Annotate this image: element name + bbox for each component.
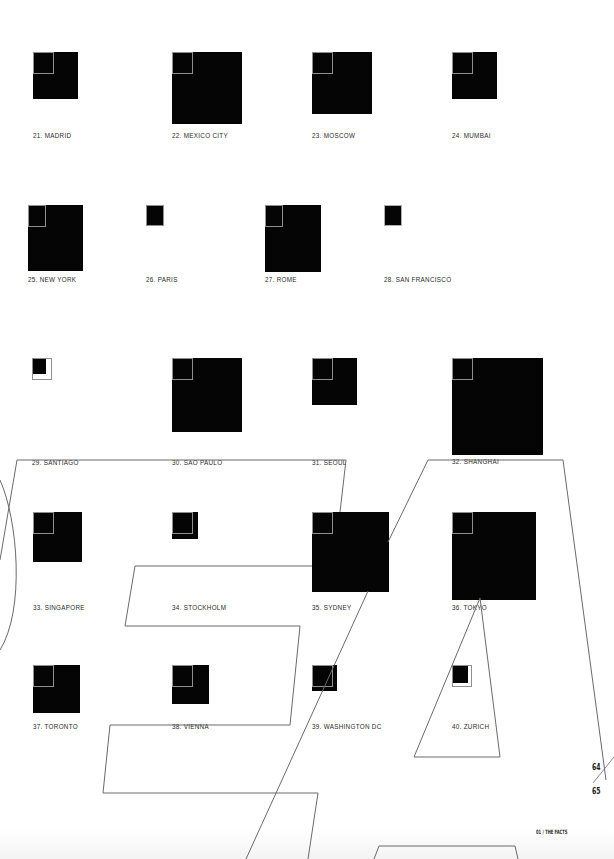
reference-square (28, 205, 46, 227)
city-block-mexico-city: 22. MEXICO CITY (172, 52, 292, 192)
reference-square (172, 52, 193, 74)
city-block-stockholm: 34. STOCKHOLM (172, 512, 292, 652)
city-label: 26. PARIS (146, 276, 178, 283)
reference-square (312, 52, 333, 74)
reference-square (452, 358, 473, 380)
city-block-madrid: 21. MADRID (33, 52, 153, 192)
city-label: 40. ZURICH (452, 723, 489, 730)
city-block-santiago: 29. SANTIAGO (32, 358, 152, 498)
area-square (453, 666, 468, 683)
reference-square (172, 358, 193, 380)
city-label: 37. TORONTO (33, 723, 78, 730)
city-block-tokyo: 36. TOKYO (452, 512, 572, 652)
city-label: 35. SYDNEY (312, 604, 351, 611)
reference-square (312, 665, 333, 687)
reference-square (33, 665, 54, 687)
city-block-singapore: 33. SINGAPORE (33, 512, 153, 652)
city-label: 29. SANTIAGO (32, 459, 79, 466)
reference-square (33, 52, 54, 74)
city-block-shanghai: 32. SHANGHAI (452, 358, 572, 498)
city-block-san-francisco: 28. SAN FRANCISCO (384, 205, 504, 345)
outline-arc (0, 480, 16, 650)
reference-square (33, 512, 54, 534)
city-block-moscow: 23. MOSCOW (312, 52, 432, 192)
city-label: 24. MUMBAI (452, 132, 491, 139)
city-block-zurich: 40. ZURICH (452, 665, 572, 805)
city-label: 38. VIENNA (172, 723, 209, 730)
city-block-sydney: 35. SYDNEY (312, 512, 432, 652)
city-block-seoul: 31. SEOUL (312, 358, 432, 498)
city-block-rome: 27. ROME (265, 205, 385, 345)
reference-square (452, 52, 473, 74)
city-label: 23. MOSCOW (312, 132, 355, 139)
city-label: 28. SAN FRANCISCO (384, 276, 451, 283)
reference-square (172, 512, 193, 534)
reference-square (265, 205, 283, 227)
reference-square (312, 512, 333, 534)
reference-square (172, 665, 193, 687)
city-label: 21. MADRID (33, 132, 71, 139)
city-block-paris: 26. PARIS (146, 205, 266, 345)
city-label: 36. TOKYO (452, 604, 487, 611)
city-label: 34. STOCKHOLM (172, 604, 226, 611)
city-label: 39. WASHINGTON DC (312, 723, 381, 730)
city-label: 33. SINGAPORE (33, 604, 85, 611)
page-shadow (0, 829, 614, 859)
city-block-toronto: 37. TORONTO (33, 665, 153, 805)
city-block-new-york: 25. NEW YORK (28, 205, 148, 345)
page-number-left: 64 (592, 762, 601, 772)
reference-square (384, 205, 402, 226)
reference-square (312, 358, 333, 380)
city-label: 22. MEXICO CITY (172, 132, 228, 139)
city-block-washington-dc: 39. WASHINGTON DC (312, 665, 432, 805)
city-label: 25. NEW YORK (28, 276, 76, 283)
page-number-right: 65 (592, 786, 601, 796)
area-square (33, 359, 46, 374)
city-label: 31. SEOUL (312, 459, 347, 466)
outline-bottom (374, 846, 518, 859)
city-block-mumbai: 24. MUMBAI (452, 52, 572, 192)
section-title: 01 / THE FACTS (536, 828, 568, 835)
city-block-vienna: 38. VIENNA (172, 665, 292, 805)
reference-square (452, 512, 473, 534)
reference-square (146, 205, 164, 226)
city-label: 30. SAO PAULO (172, 459, 222, 466)
city-label: 27. ROME (265, 276, 297, 283)
city-block-sao-paulo: 30. SAO PAULO (172, 358, 292, 498)
city-label: 32. SHANGHAI (452, 458, 499, 465)
